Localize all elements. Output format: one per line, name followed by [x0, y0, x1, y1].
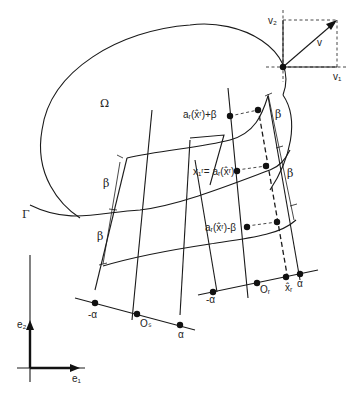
beta-label-1: β [103, 177, 109, 190]
chart-s-line-minus-alpha [95, 158, 127, 290]
label-lower: aᵣ(x̂ʳ)-β [205, 222, 236, 233]
beta-label-3: β [275, 108, 281, 121]
label-s-minus-alpha: -α [88, 309, 97, 320]
chart-r-line-alpha [268, 96, 300, 280]
point-s-origin [134, 311, 140, 317]
label-r-xhat: x̂ᵣ [285, 282, 293, 293]
e1-arrow-head-icon [70, 364, 80, 372]
connector-mid [237, 166, 266, 170]
inset-vector-v [283, 23, 334, 67]
beta-label-4: β [287, 167, 293, 180]
tick [109, 209, 117, 210]
chart-r-line-origin [228, 88, 248, 298]
point-r-xhat [283, 274, 289, 280]
connector-lower [247, 222, 277, 226]
label-v1: v₁ [333, 71, 342, 82]
label-r-minus-alpha: -α [206, 294, 215, 305]
label-v2: v₂ [268, 15, 277, 26]
point-mid [234, 168, 240, 174]
domain-boundary [41, 24, 286, 218]
connector-upper [230, 110, 258, 116]
beta-label-2: β [97, 230, 103, 243]
local-chart-diagram: Ω Γ aᵣ(x̂ʳ)+β x₁ʳ= aᵣ(x̂ʳ) aᵣ(x̂ʳ)-β β β… [0, 0, 364, 396]
point-s-minus-alpha [92, 300, 98, 306]
label-s-origin: Oₛ [140, 318, 152, 329]
curve-lower [103, 220, 296, 266]
point-upper-proj [255, 107, 261, 113]
point-lower [244, 224, 250, 230]
e2-arrow-head-icon [26, 320, 34, 330]
point-r-alpha [297, 271, 303, 277]
label-upper: aᵣ(x̂ʳ)+β [183, 109, 217, 120]
label-v: v [317, 37, 322, 48]
gamma-label: Γ [22, 208, 30, 221]
chart-s-line-alpha [180, 140, 190, 315]
tick [117, 155, 123, 158]
omega-label: Ω [100, 97, 109, 110]
point-lower-proj [274, 219, 280, 225]
label-r-origin: Oᵣ [260, 284, 271, 295]
curve-gamma [30, 150, 290, 216]
point-s-alpha [177, 322, 183, 328]
point-upper [227, 113, 233, 119]
inset-origin [280, 64, 286, 70]
label-mid: x₁ʳ= aᵣ(x̂ʳ) [193, 166, 234, 177]
label-s-alpha: α [178, 329, 184, 340]
label-e2: e₂ [17, 319, 27, 330]
label-e1: e₁ [72, 373, 82, 384]
chart-r-dashed-xhat [258, 108, 288, 280]
label-r-alpha: α [297, 278, 303, 289]
chart-s-line-origin [132, 110, 152, 320]
point-mid-proj [263, 163, 269, 169]
